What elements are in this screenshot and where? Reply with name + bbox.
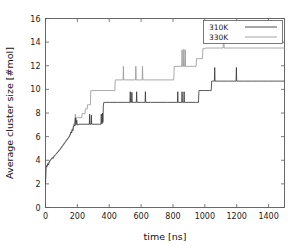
y-axis-ticks: 0246810121416: [30, 15, 284, 213]
legend-label-330k: 330K: [209, 33, 229, 42]
chart-figure: 0246810121416 0200400600800100012001400 …: [0, 0, 302, 248]
legend-label-310k: 310K: [209, 23, 229, 32]
y-axis-title: Average cluster size [#mol]: [4, 47, 15, 179]
y-tick-label: 12: [30, 62, 40, 71]
y-tick-label: 2: [35, 180, 40, 189]
y-tick-label: 4: [35, 156, 40, 165]
series-line-310k: [46, 68, 285, 184]
series-line-330k: [46, 26, 285, 184]
y-tick-label: 16: [30, 15, 40, 24]
x-tick-label: 200: [70, 212, 85, 221]
y-tick-label: 14: [30, 38, 40, 47]
y-tick-label: 8: [35, 109, 40, 118]
x-tick-label: 1000: [195, 212, 215, 221]
x-tick-label: 400: [102, 212, 117, 221]
x-tick-label: 800: [165, 212, 180, 221]
plot-frame: [46, 19, 285, 208]
chart-legend: 310K 330K: [204, 21, 283, 44]
x-tick-label: 0: [43, 212, 48, 221]
data-series-group: [46, 26, 285, 184]
y-tick-label: 6: [35, 133, 40, 142]
x-tick-label: 1400: [258, 212, 278, 221]
y-tick-label: 0: [35, 204, 40, 213]
line-chart-svg: 0246810121416 0200400600800100012001400 …: [0, 0, 302, 248]
y-tick-label: 10: [30, 85, 40, 94]
x-tick-label: 1200: [227, 212, 247, 221]
x-tick-label: 600: [133, 212, 148, 221]
x-axis-title: time [ns]: [144, 231, 187, 242]
x-axis-ticks: 0200400600800100012001400: [43, 19, 279, 221]
